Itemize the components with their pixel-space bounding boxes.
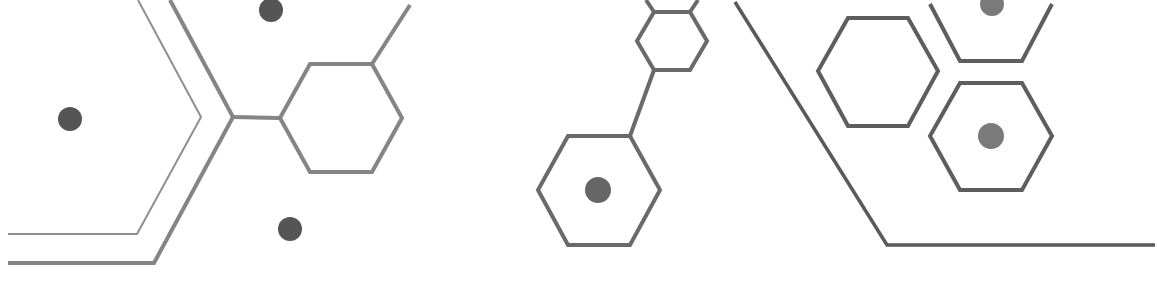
dot-left xyxy=(58,107,82,131)
background xyxy=(0,0,1157,295)
dot-hex-center xyxy=(585,177,611,203)
molecular-hexagon-graphic xyxy=(0,0,1157,295)
dot-right-lower xyxy=(978,123,1004,149)
dot-bottom xyxy=(278,217,302,241)
bond-line-left xyxy=(233,117,280,118)
